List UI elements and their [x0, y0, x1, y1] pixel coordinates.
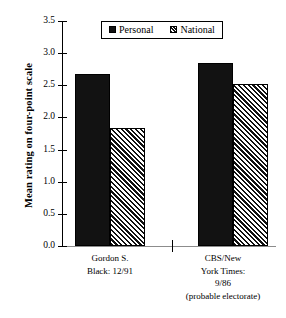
y-tick-1-5: 1.5: [62, 150, 71, 151]
legend-label-national: National: [180, 24, 214, 35]
category-label-group2: CBS/New York Times: 9/86 (probable elect…: [163, 252, 283, 302]
legend-swatch-personal-icon: [109, 26, 116, 33]
legend-item-personal: Personal: [109, 24, 153, 35]
category-label-group2-line3: 9/86: [163, 277, 283, 290]
y-tick-mark: [58, 246, 67, 247]
legend-swatch-national-icon: [170, 26, 177, 33]
y-tick-2-0: 2.0: [62, 117, 71, 118]
y-tick-label: 3.5: [43, 14, 55, 27]
y-tick-mark: [58, 85, 67, 86]
category-label-group2-line4: (probable electorate): [163, 290, 283, 303]
category-label-group2-line2: York Times:: [163, 265, 283, 278]
bar-chart: Mean rating on four-point scale 3.53.02.…: [0, 0, 286, 318]
y-tick-0-5: 0.5: [62, 214, 71, 215]
y-axis-title: Mean rating on four-point scale: [23, 36, 34, 236]
y-tick-mark: [58, 214, 67, 215]
y-tick-label: 0.0: [43, 239, 55, 252]
y-tick-mark: [58, 182, 67, 183]
y-tick-label: 3.0: [43, 46, 55, 59]
y-tick-mark: [58, 21, 67, 22]
y-tick-0-0: 0.0: [62, 246, 71, 247]
y-tick-label: 1.0: [43, 175, 55, 188]
y-tick-label: 1.5: [43, 143, 55, 156]
bar-national-group2: [233, 84, 268, 246]
bar-personal-group1: [75, 74, 110, 246]
y-tick-mark: [58, 117, 67, 118]
y-tick-2-5: 2.5: [62, 85, 71, 86]
y-tick-label: 2.5: [43, 78, 55, 91]
y-tick-label: 2.0: [43, 110, 55, 123]
y-tick-mark: [58, 150, 67, 151]
y-tick-mark: [58, 53, 67, 54]
group-separator-tick: [172, 240, 173, 252]
category-label-group1: Gordon S. Black: 12/91: [40, 252, 180, 277]
y-tick-3-0: 3.0: [62, 53, 71, 54]
y-tick-1-0: 1.0: [62, 182, 71, 183]
y-tick-label: 0.5: [43, 207, 55, 220]
legend-item-national: National: [170, 24, 214, 35]
plot-area: 3.53.02.52.01.51.00.50.0: [62, 21, 277, 246]
chart-legend: Personal National: [101, 21, 223, 39]
bar-personal-group2: [198, 63, 233, 246]
category-label-group1-line2: Black: 12/91: [40, 265, 180, 278]
bar-national-group1: [110, 128, 145, 246]
category-label-group2-line1: CBS/New: [163, 252, 283, 265]
y-tick-3-5: 3.5: [62, 21, 71, 22]
legend-label-personal: Personal: [119, 24, 153, 35]
x-axis-line: [62, 246, 276, 247]
category-label-group1-line1: Gordon S.: [40, 252, 180, 265]
